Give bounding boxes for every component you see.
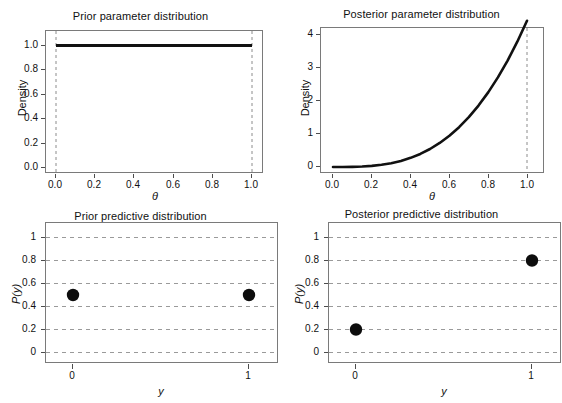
xtick-mark <box>371 174 372 178</box>
xtick-mark <box>72 364 73 369</box>
ytick-label: 0.2 <box>291 324 319 334</box>
panel-title-prior-predictive: Prior predictive distribution <box>0 210 281 222</box>
xtick-label: 0 <box>340 371 370 381</box>
xtick-label: 0.8 <box>197 180 227 190</box>
xtick-label: 0.6 <box>158 180 188 190</box>
ytick-label: 0 <box>291 347 319 357</box>
xtick-mark <box>531 364 532 369</box>
xtick-label: 0.0 <box>317 180 347 190</box>
plot-canvas-prior-parameter <box>46 31 262 172</box>
ytick-label: 0 <box>8 347 36 357</box>
xtick-mark <box>488 174 489 178</box>
x-axis-label-y-posterior: y <box>429 385 459 397</box>
xtick-mark <box>248 364 249 369</box>
xtick-mark <box>133 174 134 178</box>
xtick-mark <box>449 174 450 178</box>
y-axis-label-py-posterior: P(y) <box>293 269 305 319</box>
ytick-label: 0.2 <box>6 138 38 148</box>
xtick-label: 0.4 <box>118 180 148 190</box>
ytick-label: 0.8 <box>6 64 38 74</box>
data-point-marker <box>67 289 79 301</box>
xtick-mark <box>355 364 356 369</box>
xtick-label: 0.2 <box>356 180 386 190</box>
plot-area-prior-predictive <box>45 222 278 363</box>
ytick-label: 2 <box>293 95 313 105</box>
xtick-mark <box>212 174 213 178</box>
data-point-marker <box>526 254 538 266</box>
xtick-label: 1.0 <box>236 180 266 190</box>
xtick-mark <box>251 174 252 178</box>
xtick-label: 1 <box>516 371 546 381</box>
bayesian-distributions-figure: Prior parameter distribution Density 1.0… <box>0 0 562 403</box>
xtick-mark <box>527 174 528 178</box>
xtick-label: 0 <box>57 371 87 381</box>
plot-area-prior-parameter <box>45 30 263 173</box>
panel-title-prior-parameter: Prior parameter distribution <box>0 10 281 22</box>
plot-area-posterior-predictive <box>328 222 561 363</box>
ytick-label: 0.4 <box>8 301 36 311</box>
ytick-label: 4 <box>293 29 313 39</box>
xtick-mark <box>173 174 174 178</box>
ytick-label: 3 <box>293 62 313 72</box>
data-point-marker <box>243 289 255 301</box>
panel-prior-predictive: Prior predictive distribution P(y) 1 0.8… <box>0 201 281 403</box>
ytick-label: 0 <box>293 161 313 171</box>
plot-canvas-posterior-predictive <box>329 223 560 362</box>
xtick-label: 0.8 <box>473 180 503 190</box>
ytick-label: 1 <box>293 128 313 138</box>
xtick-mark <box>55 174 56 178</box>
xtick-mark <box>410 174 411 178</box>
ytick-label: 1.0 <box>6 40 38 50</box>
panel-title-posterior-parameter: Posterior parameter distribution <box>281 8 562 20</box>
plot-area-posterior-parameter <box>320 27 544 173</box>
panel-prior-parameter: Prior parameter distribution Density 1.0… <box>0 0 281 201</box>
xtick-label: 1 <box>233 371 263 381</box>
ytick-label: 1 <box>291 232 319 242</box>
xtick-label: 0.4 <box>395 180 425 190</box>
ytick-label: 1 <box>8 232 36 242</box>
density-curve-beta-4-1 <box>333 21 527 167</box>
panel-posterior-parameter: Posterior parameter distribution Density… <box>281 0 562 201</box>
ytick-label: 0.8 <box>8 255 36 265</box>
plot-canvas-prior-predictive <box>46 223 277 362</box>
panel-posterior-predictive: Posterior predictive distribution P(y) 1… <box>281 201 562 403</box>
ytick-label: 0.0 <box>6 162 38 172</box>
ytick-label: 0.4 <box>291 301 319 311</box>
x-axis-label-y-prior: y <box>146 385 176 397</box>
ytick-label: 0.8 <box>291 255 319 265</box>
ytick-label: 0.4 <box>6 113 38 123</box>
xtick-mark <box>332 174 333 178</box>
panel-title-posterior-predictive: Posterior predictive distribution <box>281 208 562 220</box>
xtick-label: 1.0 <box>512 180 542 190</box>
y-axis-label-py-prior: P(y) <box>10 269 22 319</box>
xtick-label: 0.0 <box>40 180 70 190</box>
ytick-label: 0.6 <box>8 278 36 288</box>
data-point-marker <box>350 323 362 335</box>
ytick-label: 0.2 <box>8 324 36 334</box>
xtick-label: 0.6 <box>434 180 464 190</box>
plot-canvas-posterior-parameter <box>321 28 543 172</box>
ytick-label: 0.6 <box>6 89 38 99</box>
xtick-label: 0.2 <box>79 180 109 190</box>
ytick-label: 0.6 <box>291 278 319 288</box>
xtick-mark <box>94 174 95 178</box>
